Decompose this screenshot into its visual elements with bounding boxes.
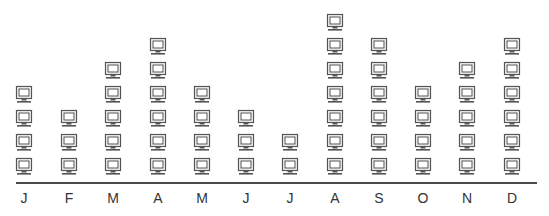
- computer-monitor-icon: [14, 133, 34, 153]
- x-tick-label: J: [275, 190, 305, 206]
- pictograph-column: [411, 81, 435, 177]
- computer-monitor-icon: [236, 133, 256, 153]
- computer-monitor-icon: [103, 85, 123, 105]
- x-tick-label: O: [408, 190, 438, 206]
- x-tick-label: D: [497, 190, 527, 206]
- pictograph-column: [12, 81, 36, 177]
- computer-monitor-icon: [502, 109, 522, 129]
- computer-monitor-icon: [457, 133, 477, 153]
- computer-monitor-icon: [103, 61, 123, 81]
- computer-monitor-icon: [103, 133, 123, 153]
- computer-monitor-icon: [148, 37, 168, 57]
- computer-monitor-icon: [369, 157, 389, 177]
- computer-monitor-icon: [502, 157, 522, 177]
- x-tick-label: S: [364, 190, 394, 206]
- x-tick-label: F: [54, 190, 84, 206]
- computer-monitor-icon: [148, 85, 168, 105]
- x-tick-label: A: [320, 190, 350, 206]
- computer-monitor-icon: [325, 109, 345, 129]
- computer-monitor-icon: [148, 133, 168, 153]
- computer-monitor-icon: [103, 109, 123, 129]
- computer-monitor-icon: [325, 37, 345, 57]
- pictograph-column: [234, 105, 258, 177]
- computer-monitor-icon: [325, 13, 345, 33]
- pictograph-chart: JFMAMJJASOND: [0, 0, 549, 216]
- computer-monitor-icon: [236, 157, 256, 177]
- x-tick-label: M: [98, 190, 128, 206]
- x-tick-label: M: [187, 190, 217, 206]
- computer-monitor-icon: [457, 85, 477, 105]
- computer-monitor-icon: [502, 61, 522, 81]
- computer-monitor-icon: [236, 109, 256, 129]
- computer-monitor-icon: [369, 61, 389, 81]
- computer-monitor-icon: [413, 133, 433, 153]
- x-tick-label: J: [231, 190, 261, 206]
- computer-monitor-icon: [148, 61, 168, 81]
- computer-monitor-icon: [325, 157, 345, 177]
- computer-monitor-icon: [280, 133, 300, 153]
- computer-monitor-icon: [325, 133, 345, 153]
- computer-monitor-icon: [457, 109, 477, 129]
- pictograph-column: [455, 57, 479, 177]
- computer-monitor-icon: [192, 157, 212, 177]
- computer-monitor-icon: [325, 61, 345, 81]
- computer-monitor-icon: [59, 133, 79, 153]
- computer-monitor-icon: [325, 85, 345, 105]
- computer-monitor-icon: [192, 133, 212, 153]
- computer-monitor-icon: [192, 109, 212, 129]
- computer-monitor-icon: [457, 157, 477, 177]
- computer-monitor-icon: [369, 109, 389, 129]
- pictograph-column: [367, 33, 391, 177]
- computer-monitor-icon: [148, 109, 168, 129]
- pictograph-column: [146, 33, 170, 177]
- computer-monitor-icon: [413, 157, 433, 177]
- computer-monitor-icon: [14, 85, 34, 105]
- pictograph-column: [57, 105, 81, 177]
- pictograph-column: [278, 129, 302, 177]
- computer-monitor-icon: [192, 85, 212, 105]
- computer-monitor-icon: [413, 85, 433, 105]
- computer-monitor-icon: [502, 85, 522, 105]
- pictograph-column: [323, 9, 347, 177]
- pictograph-column: [500, 33, 524, 177]
- computer-monitor-icon: [59, 157, 79, 177]
- x-axis-line: [16, 182, 537, 184]
- computer-monitor-icon: [369, 133, 389, 153]
- computer-monitor-icon: [103, 157, 123, 177]
- computer-monitor-icon: [280, 157, 300, 177]
- computer-monitor-icon: [369, 85, 389, 105]
- computer-monitor-icon: [148, 157, 168, 177]
- computer-monitor-icon: [369, 37, 389, 57]
- computer-monitor-icon: [14, 157, 34, 177]
- computer-monitor-icon: [413, 109, 433, 129]
- pictograph-column: [101, 57, 125, 177]
- x-tick-label: J: [9, 190, 39, 206]
- pictograph-column: [190, 81, 214, 177]
- computer-monitor-icon: [502, 37, 522, 57]
- computer-monitor-icon: [457, 61, 477, 81]
- x-tick-label: A: [143, 190, 173, 206]
- x-tick-label: N: [452, 190, 482, 206]
- computer-monitor-icon: [14, 109, 34, 129]
- computer-monitor-icon: [59, 109, 79, 129]
- computer-monitor-icon: [502, 133, 522, 153]
